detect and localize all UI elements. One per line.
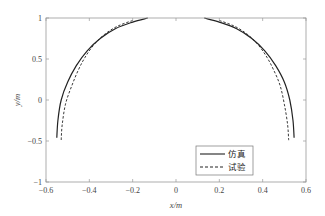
series-simulation-line-1 (204, 18, 294, 138)
series-simulation-line-0 (57, 18, 148, 138)
x-tick-label: 0.4 (258, 186, 268, 195)
y-tick-label: 0.5 (32, 55, 42, 64)
y-tick-label: 1 (38, 14, 42, 23)
legend-label-sim: 仿真 (228, 149, 246, 159)
series-experiment-line-0 (61, 21, 133, 141)
chart: −0.6−0.4−0.200.20.40.6−1−0.500.51 x/m y/… (0, 0, 325, 216)
ticks: −0.6−0.4−0.200.20.40.6−1−0.500.51 (27, 14, 311, 195)
series-experiment-line-1 (219, 21, 288, 141)
y-tick-label: −1 (33, 178, 42, 187)
x-tick-label: 0.2 (214, 186, 224, 195)
y-tick-label: 0 (38, 96, 42, 105)
x-tick-label: 0.6 (301, 186, 311, 195)
x-tick-label: −0.4 (82, 186, 97, 195)
axes-frame (46, 18, 306, 182)
y-axis-label: y/m (12, 94, 22, 107)
legend-label-test: 试验 (228, 162, 246, 172)
y-tick-label: −0.5 (27, 137, 42, 146)
x-tick-label: −0.6 (39, 186, 54, 195)
x-tick-label: 0 (174, 186, 178, 195)
legend: 仿真 试验 (196, 146, 253, 175)
plot-area (57, 18, 294, 140)
x-axis-label: x/m (169, 200, 182, 210)
x-tick-label: −0.2 (125, 186, 140, 195)
